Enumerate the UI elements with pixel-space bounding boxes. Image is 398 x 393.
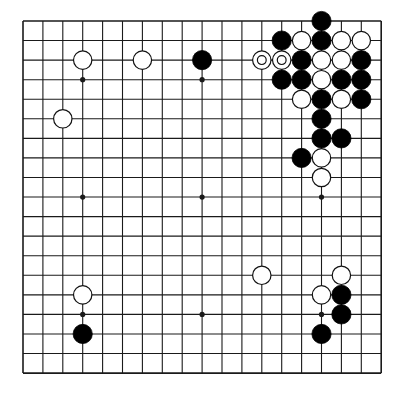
white-stone[interactable] bbox=[74, 51, 92, 69]
white-stone-marked[interactable] bbox=[253, 51, 271, 69]
black-stone[interactable] bbox=[332, 129, 351, 148]
star-point-icon bbox=[80, 77, 85, 82]
go-board-canvas[interactable] bbox=[0, 0, 398, 393]
black-stone[interactable] bbox=[292, 51, 311, 70]
star-point-icon bbox=[200, 77, 205, 82]
black-stone[interactable] bbox=[312, 129, 331, 148]
star-point-icon bbox=[80, 194, 85, 199]
white-stone[interactable] bbox=[74, 286, 92, 304]
star-point-icon bbox=[200, 194, 205, 199]
black-stone[interactable] bbox=[352, 70, 371, 89]
black-stone[interactable] bbox=[193, 51, 212, 70]
white-stone[interactable] bbox=[54, 110, 72, 128]
white-stone[interactable] bbox=[332, 90, 350, 108]
white-stone[interactable] bbox=[312, 168, 330, 186]
white-stone[interactable] bbox=[292, 90, 310, 108]
black-stone[interactable] bbox=[312, 109, 331, 128]
white-stone[interactable] bbox=[332, 266, 350, 284]
white-stone[interactable] bbox=[253, 266, 271, 284]
white-stone[interactable] bbox=[312, 51, 330, 69]
black-stone[interactable] bbox=[73, 324, 92, 343]
white-stone-marked[interactable] bbox=[273, 51, 291, 69]
white-stone[interactable] bbox=[292, 31, 310, 49]
go-board[interactable] bbox=[0, 0, 398, 393]
black-stone[interactable] bbox=[312, 90, 331, 109]
black-stone[interactable] bbox=[332, 285, 351, 304]
black-stone[interactable] bbox=[332, 305, 351, 324]
black-stone[interactable] bbox=[352, 90, 371, 109]
black-stone[interactable] bbox=[352, 51, 371, 70]
black-stone[interactable] bbox=[292, 148, 311, 167]
star-point-icon bbox=[319, 194, 324, 199]
black-stone[interactable] bbox=[332, 70, 351, 89]
star-point-icon bbox=[200, 312, 205, 317]
black-stone[interactable] bbox=[312, 11, 331, 30]
star-point-icon bbox=[319, 312, 324, 317]
star-point-icon bbox=[80, 312, 85, 317]
black-stone[interactable] bbox=[312, 31, 331, 50]
black-stone[interactable] bbox=[272, 31, 291, 50]
black-stone[interactable] bbox=[272, 70, 291, 89]
white-stone[interactable] bbox=[332, 31, 350, 49]
white-stone[interactable] bbox=[312, 149, 330, 167]
black-stone[interactable] bbox=[312, 324, 331, 343]
white-stone[interactable] bbox=[352, 31, 370, 49]
white-stone[interactable] bbox=[133, 51, 151, 69]
white-stone[interactable] bbox=[312, 70, 330, 88]
white-stone[interactable] bbox=[312, 286, 330, 304]
white-stone[interactable] bbox=[332, 51, 350, 69]
black-stone[interactable] bbox=[292, 70, 311, 89]
